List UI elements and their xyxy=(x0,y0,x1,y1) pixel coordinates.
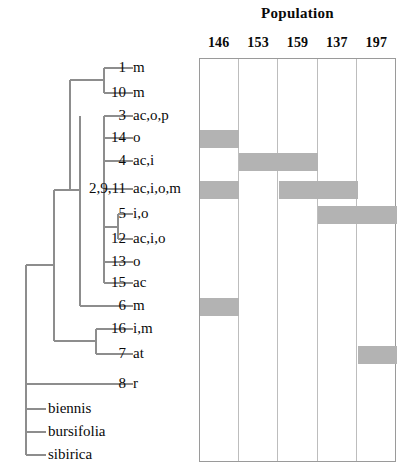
taxon-number: 1 xyxy=(60,60,126,75)
phylogeny-population-figure: Population 146153159137197 xyxy=(0,0,410,476)
matrix-cell-shaded xyxy=(279,153,318,171)
outgroup-name: bursifolia xyxy=(48,424,106,439)
matrix-title: Population xyxy=(199,5,396,22)
outgroup-name: sibirica xyxy=(48,447,92,462)
taxon-number: 12 xyxy=(60,231,126,246)
taxon-character-states: o xyxy=(133,130,141,145)
taxon-number: 8 xyxy=(60,376,126,391)
taxon-character-states: at xyxy=(133,346,144,361)
taxon-character-states: r xyxy=(133,376,138,391)
taxon-number: 15 xyxy=(60,275,126,290)
taxon-number: 13 xyxy=(60,254,126,269)
taxon-character-states: i,o xyxy=(133,206,148,221)
matrix-cell-shaded xyxy=(200,181,239,199)
taxon-number: 6 xyxy=(60,298,126,313)
matrix-cell-shaded xyxy=(200,298,239,316)
taxon-character-states: m xyxy=(133,85,145,100)
taxon-character-states: ac,i,o xyxy=(133,231,165,246)
matrix-cell-shaded xyxy=(200,130,239,148)
matrix-cell-shaded xyxy=(358,206,397,224)
matrix-cell-shaded xyxy=(279,181,318,199)
taxon-character-states: m xyxy=(133,298,145,313)
taxon-labels: 1m10m3ac,o,p14o4ac,i2,9,11ac,i,o,m5i,o12… xyxy=(0,0,199,476)
matrix-cell-shaded xyxy=(318,206,357,224)
population-header-159: 159 xyxy=(278,33,317,52)
taxon-number: 5 xyxy=(60,206,126,221)
taxon-number: 3 xyxy=(60,108,126,123)
taxon-character-states: ac,o,p xyxy=(133,108,169,123)
taxon-number: 16 xyxy=(60,321,126,336)
population-header-153: 153 xyxy=(238,33,277,52)
taxon-number: 4 xyxy=(60,153,126,168)
population-header-137: 137 xyxy=(317,33,356,52)
matrix-cell-shaded xyxy=(358,346,397,364)
matrix-cell-shaded xyxy=(239,153,278,171)
population-header-146: 146 xyxy=(199,33,238,52)
taxon-character-states: ac xyxy=(133,275,146,290)
outgroup-name: biennis xyxy=(48,401,91,416)
taxon-number: 2,9,11 xyxy=(60,181,126,196)
taxon-number: 7 xyxy=(60,346,126,361)
matrix-cell-shaded xyxy=(318,181,357,199)
population-column-headers: 146153159137197 xyxy=(199,33,396,52)
taxon-character-states: ac,i xyxy=(133,153,154,168)
taxon-character-states: o xyxy=(133,254,141,269)
taxon-character-states: ac,i,o,m xyxy=(133,181,181,196)
matrix-shaded-cells xyxy=(200,59,395,461)
taxon-character-states: m xyxy=(133,60,145,75)
taxon-character-states: i,m xyxy=(133,321,153,336)
taxon-number: 10 xyxy=(60,85,126,100)
taxon-number: 14 xyxy=(60,130,126,145)
population-header-197: 197 xyxy=(357,33,396,52)
population-matrix xyxy=(199,58,396,462)
